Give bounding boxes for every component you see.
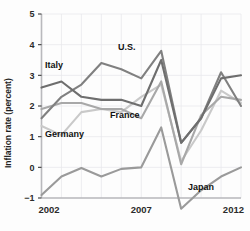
- y-tick-label: 4: [29, 40, 34, 50]
- x-tick-label: 2007: [131, 204, 152, 215]
- series-label-us: U.S.: [118, 42, 136, 52]
- y-tick-label: 2: [29, 101, 34, 111]
- y-tick-label: 1: [29, 132, 34, 142]
- series-label-france: France: [110, 110, 140, 120]
- x-tick-label: 2002: [39, 204, 60, 215]
- y-tick-label: 3: [29, 71, 34, 81]
- y-tick-label: 0: [29, 163, 34, 173]
- x-tick-label: 2012: [223, 204, 244, 215]
- series-label-germany: Germany: [45, 129, 84, 139]
- y-tick-label: −1: [24, 193, 34, 203]
- y-axis-title: Inflation rate (percent): [3, 78, 13, 168]
- series-label-italy: Italy: [45, 60, 63, 70]
- y-tick-label: 5: [29, 9, 34, 19]
- chart-plot-area: −1012345 200220072012 ItalyU.S.FranceGer…: [0, 0, 250, 231]
- inflation-rate-line-chart: −1012345 200220072012 ItalyU.S.FranceGer…: [0, 0, 250, 231]
- series-label-japan: Japan: [188, 182, 214, 192]
